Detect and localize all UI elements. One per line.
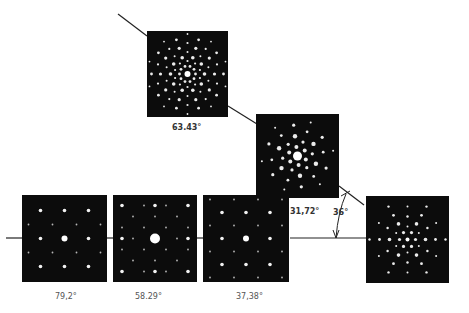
- diffraction-pattern-middle: [256, 114, 339, 198]
- angle-label-bottom-3: 37,38°: [236, 292, 263, 301]
- angle-label-middle: 31,72°: [290, 207, 319, 216]
- diffraction-pattern-bottom-3: [203, 195, 289, 282]
- diffraction-pattern-right: [366, 196, 449, 283]
- diffraction-pattern-top: [147, 31, 228, 117]
- diffraction-pattern-bottom-2: [113, 195, 197, 282]
- angle-label-bottom-2: 58.29°: [135, 292, 162, 301]
- angle-label-bottom-1: 79,2°: [55, 292, 77, 301]
- diffraction-pattern-bottom-1: [22, 195, 107, 282]
- rotation-angle-label: 36°: [333, 208, 348, 217]
- angle-label-top: 63.43°: [172, 123, 201, 132]
